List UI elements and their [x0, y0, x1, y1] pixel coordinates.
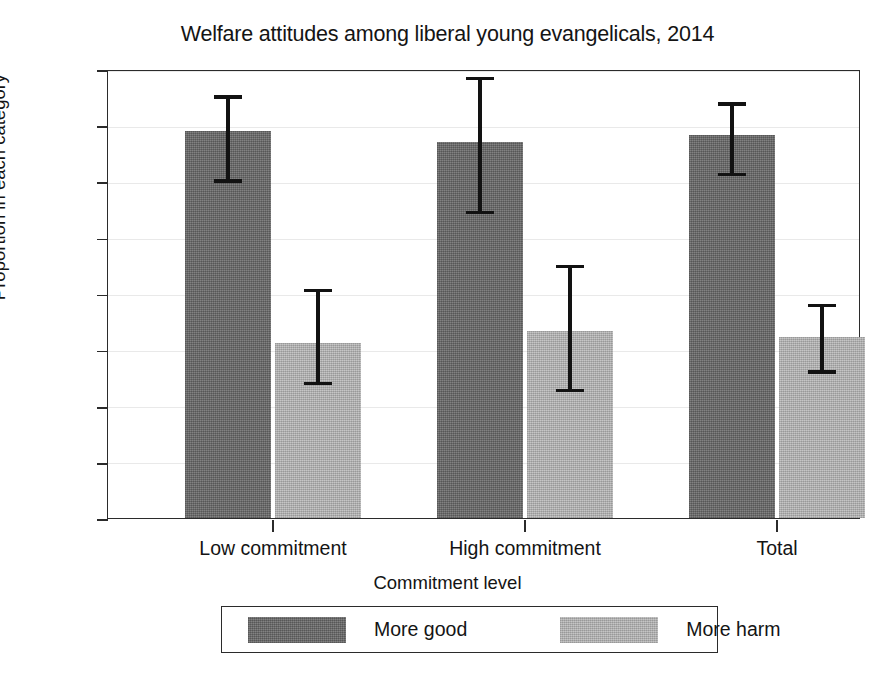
error-bar-more-harm	[298, 289, 338, 386]
error-bar-more-harm	[550, 265, 590, 392]
chart-legend: More good More harm	[221, 606, 718, 653]
error-bar-cap-lower	[718, 173, 746, 176]
y-axis-tick	[97, 463, 108, 465]
error-bar-stem	[820, 304, 823, 374]
error-bar-cap-upper	[808, 304, 836, 307]
x-axis-tick-label: Total	[647, 537, 895, 560]
x-axis-tick	[272, 520, 274, 532]
y-axis-tick	[97, 126, 108, 128]
y-axis-tick	[97, 407, 108, 409]
legend-label-more-harm: More harm	[686, 618, 780, 641]
x-axis-tick	[524, 520, 526, 532]
error-bar-cap-lower	[304, 382, 332, 385]
error-bar-cap-lower	[214, 179, 242, 182]
legend-label-more-good: More good	[374, 618, 467, 641]
x-axis-label: Commitment level	[0, 572, 895, 594]
error-bar-cap-upper	[214, 95, 242, 98]
legend-swatch-more-good	[248, 617, 346, 643]
bar-more-good	[689, 135, 775, 518]
y-axis-label: Proportion in each category	[0, 0, 10, 417]
error-bar-stem	[568, 265, 571, 392]
y-axis-tick	[97, 182, 108, 184]
y-axis-tick	[97, 295, 108, 297]
error-bar-cap-lower	[808, 370, 836, 373]
legend-entry-more-harm[interactable]: More harm	[560, 617, 780, 643]
error-bar-more-harm	[802, 304, 842, 374]
error-bar-stem	[730, 102, 733, 176]
error-bar-more-good	[208, 95, 248, 183]
error-bar-more-good	[460, 77, 500, 215]
x-axis-tick	[776, 520, 778, 532]
error-bar-cap-upper	[304, 289, 332, 292]
x-axis-tick-label: High commitment	[395, 537, 655, 560]
error-bar-cap-upper	[718, 102, 746, 105]
error-bar-cap-upper	[466, 77, 494, 80]
chart-figure: Welfare attitudes among liberal young ev…	[0, 0, 895, 691]
error-bar-cap-upper	[556, 265, 584, 268]
plot-frame: 0.1.2.3.4.5.6.7.8Low commitmentHigh comm…	[107, 70, 860, 519]
error-bar-cap-lower	[466, 211, 494, 214]
x-axis-tick-label: Low commitment	[143, 537, 403, 560]
legend-swatch-more-harm	[560, 617, 658, 643]
error-bar-more-good	[712, 102, 752, 176]
chart-title: Welfare attitudes among liberal young ev…	[0, 22, 895, 47]
error-bar-stem	[226, 95, 229, 183]
legend-entry-more-good[interactable]: More good	[248, 617, 467, 643]
y-axis-tick	[97, 70, 108, 72]
y-axis-tick	[97, 239, 108, 241]
gridline	[108, 71, 859, 72]
y-axis-tick	[97, 351, 108, 353]
bar-more-good	[185, 131, 271, 518]
y-axis-tick	[97, 519, 108, 521]
error-bar-stem	[316, 289, 319, 386]
error-bar-stem	[478, 77, 481, 215]
plot-area: 0.1.2.3.4.5.6.7.8Low commitmentHigh comm…	[108, 71, 859, 518]
error-bar-cap-lower	[556, 389, 584, 392]
